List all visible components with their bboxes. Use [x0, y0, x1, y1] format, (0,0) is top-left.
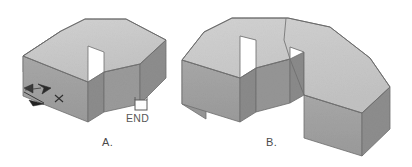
shape-a-group: [23, 19, 166, 122]
figure-caption-a: A.: [102, 136, 113, 148]
figure-caption-b: B.: [266, 136, 277, 148]
isometric-blocks-illustration: [0, 0, 412, 167]
figure-root: A. B. END: [0, 0, 412, 167]
shape-a-notch-face: [88, 72, 104, 122]
end-marker-label: END: [126, 112, 149, 124]
shape-b-group: [182, 18, 390, 156]
